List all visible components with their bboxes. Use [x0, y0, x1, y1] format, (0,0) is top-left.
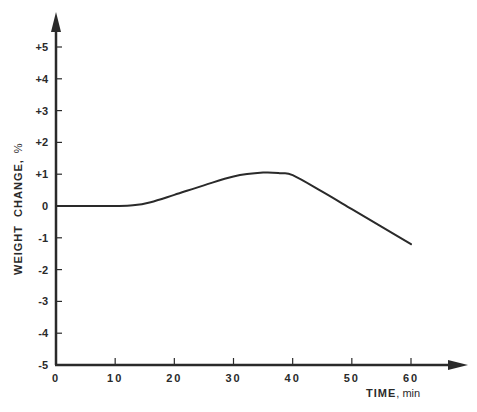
x-axis-unit: , min: [396, 387, 420, 399]
y-axis-unit: %: [12, 142, 24, 153]
x-tick-label: 50: [344, 372, 360, 384]
y-axis-title: WEIGHT CHANGE,%: [12, 142, 24, 275]
y-tick-label: -1: [38, 232, 48, 244]
weight-change-chart: +5+4+3+2+10-1-2-3-4-5 0102030405060 TIME…: [0, 0, 477, 412]
x-tick-label: 20: [166, 372, 182, 384]
x-axis-arrow-icon: [448, 360, 468, 370]
y-tick-label: +3: [35, 105, 48, 117]
y-tick-label: -5: [38, 359, 48, 371]
data-line: [56, 172, 411, 244]
y-axis-arrow-icon: [51, 12, 61, 32]
y-tick-label: +4: [35, 73, 48, 85]
x-tick-label: 10: [107, 372, 123, 384]
x-tick-label: 60: [403, 372, 419, 384]
x-axis-title: TIME, min: [366, 387, 420, 399]
x-axis-ticks: 0102030405060: [52, 358, 419, 384]
y-tick-label: +2: [35, 136, 48, 148]
y-tick-label: +5: [35, 41, 48, 53]
x-tick-label: 40: [285, 372, 301, 384]
x-tick-label: 0: [52, 372, 60, 384]
y-tick-label: -2: [38, 264, 48, 276]
y-tick-label: -4: [38, 327, 49, 339]
y-tick-label: 0: [42, 200, 48, 212]
x-tick-label: 30: [225, 372, 241, 384]
y-tick-label: -3: [38, 295, 48, 307]
y-axis-title-text: WEIGHT CHANGE,: [12, 159, 24, 275]
x-axis-title-text: TIME: [366, 387, 396, 399]
y-tick-label: +1: [35, 168, 48, 180]
